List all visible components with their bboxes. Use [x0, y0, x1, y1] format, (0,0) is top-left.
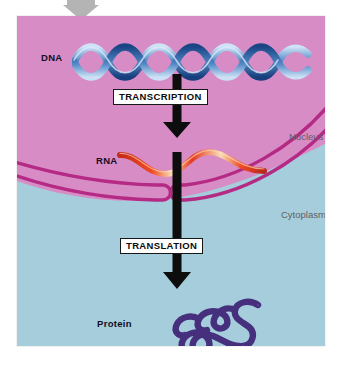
cytoplasm-label: Cytoplasm [281, 209, 325, 220]
nucleus-label: Nucleus [289, 131, 323, 142]
nuclear-envelope [17, 16, 325, 346]
rna-label: RNA [96, 155, 117, 166]
protein-label: Protein [97, 318, 132, 329]
central-dogma-diagram: Nucleus Cytoplasm TRANSCRIPTION TRANSLAT… [0, 0, 348, 366]
dna-label: DNA [41, 52, 62, 63]
transcription-label-box: TRANSCRIPTION [113, 89, 208, 105]
translation-label-box: TRANSLATION [120, 238, 203, 254]
cell-panel: Nucleus Cytoplasm [17, 16, 325, 346]
